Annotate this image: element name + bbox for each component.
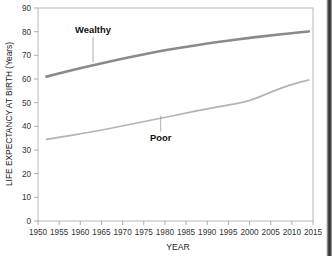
y-tick-label: 0 (26, 217, 31, 226)
x-tick-label: 1990 (198, 228, 217, 237)
x-tick-label: 2005 (262, 228, 281, 237)
x-tick-label: 1965 (92, 228, 111, 237)
x-tick-label: 1950 (29, 228, 48, 237)
x-tick-label: 1995 (219, 228, 238, 237)
x-tick-label: 1985 (177, 228, 196, 237)
page-edge-artifact (326, 0, 332, 256)
x-tick-label: 1975 (135, 228, 154, 237)
x-tick-label: 2000 (240, 228, 259, 237)
x-tick-label: 1980 (156, 228, 175, 237)
series-label-wealthy: Wealthy (75, 24, 112, 35)
y-tick-label: 60 (22, 75, 32, 84)
series-label-poor: Poor (150, 132, 172, 143)
y-tick-label: 40 (22, 122, 32, 131)
life-expectancy-line-chart: 0102030405060708090 19501955196019651970… (0, 0, 334, 256)
x-tick-label: 1955 (50, 228, 69, 237)
x-tick-label: 1970 (114, 228, 133, 237)
x-tick-label: 1960 (71, 228, 90, 237)
y-tick-label: 90 (22, 4, 32, 13)
y-tick-label: 80 (22, 28, 32, 37)
chart-page: 0102030405060708090 19501955196019651970… (0, 0, 334, 256)
x-tick-label: 2010 (283, 228, 302, 237)
y-tick-label: 30 (22, 146, 32, 155)
y-tick-label: 20 (22, 170, 32, 179)
y-axis-title: LIFE EXPECTANCY AT BIRTH (Years) (4, 42, 14, 186)
y-tick-label: 70 (22, 51, 32, 60)
y-tick-label: 10 (22, 193, 32, 202)
chart-background (0, 0, 334, 256)
y-tick-label: 50 (22, 99, 32, 108)
x-tick-label: 2015 (304, 228, 323, 237)
x-axis-title: YEAR (166, 242, 189, 252)
